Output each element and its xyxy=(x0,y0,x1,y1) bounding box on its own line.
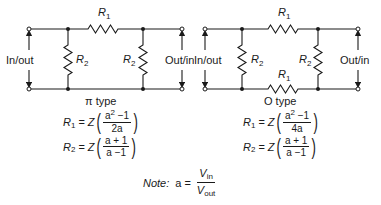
o-formula-r2: R2 = Z( a + 1a −1 ) xyxy=(243,135,318,158)
pi-r2-right-label: R2 xyxy=(123,53,135,67)
pi-formula-r1: R1 = Z( a2 −12a ) xyxy=(63,110,139,134)
note-formula: Note: a = Vin Vout xyxy=(143,166,218,199)
pi-port-right-label: Out/in xyxy=(165,54,194,66)
pi-caption: π type xyxy=(85,95,116,107)
o-port-right-label: Out/in xyxy=(340,54,369,66)
o-caption: O type xyxy=(264,95,296,107)
pi-port-left-label: In/out xyxy=(6,54,34,66)
pi-terminals xyxy=(27,27,184,91)
o-network-circuit xyxy=(205,25,358,93)
o-r2-left-label: R2 xyxy=(251,53,263,67)
note-label: Note: xyxy=(143,177,169,189)
o-formula-r1: R1 = Z( a2 −14a ) xyxy=(243,110,319,134)
pi-r2-left-label: R2 xyxy=(76,53,88,67)
o-r2-right-label: R2 xyxy=(299,53,311,67)
pi-formula-r2: R2 = Z( a + 1a −1 ) xyxy=(63,135,138,158)
o-r1-top-label: R1 xyxy=(278,6,290,20)
o-r1-bottom-label: R1 xyxy=(278,68,290,82)
o-port-left-label: In/out xyxy=(194,54,222,66)
pi-network-circuit xyxy=(29,25,182,89)
pi-r1-label: R1 xyxy=(98,6,110,20)
